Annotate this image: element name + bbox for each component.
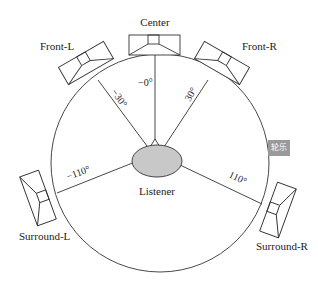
- speaker-surround-l-label: Surround-L: [19, 230, 71, 242]
- angle-front-l-label: −30°: [109, 87, 129, 109]
- line-front-r: [162, 80, 208, 150]
- speaker-surround-r-label: Surround-R: [256, 240, 309, 252]
- speaker-front-l-label: Front-L: [40, 40, 75, 52]
- line-surround-r: [180, 165, 262, 204]
- speaker-front-r-label: Front-R: [242, 40, 278, 52]
- speaker-center-label: Center: [140, 16, 170, 28]
- watermark-badge: 轮乐: [268, 140, 290, 156]
- angle-surround-l-label: −110°: [65, 163, 92, 182]
- angle-center-label: −0°: [138, 77, 153, 88]
- speaker-center-icon: [129, 35, 180, 55]
- angle-front-r-label: 30°: [182, 85, 199, 103]
- listener-head-icon: [132, 145, 182, 177]
- line-front-l: [98, 80, 150, 150]
- angle-surround-r-label: 110°: [227, 169, 249, 187]
- listener-label: Listener: [139, 185, 175, 197]
- speaker-surround-l-icon: [20, 170, 57, 226]
